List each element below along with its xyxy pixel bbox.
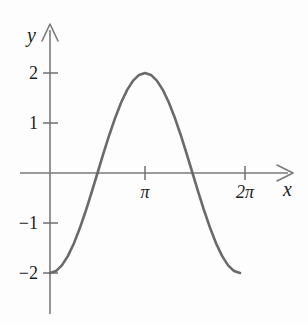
y-tick-label-2: 2 <box>0 64 38 82</box>
figure-canvas: y x 2 1 −1 −2 π 2π <box>0 0 308 325</box>
plot-svg <box>0 0 308 325</box>
y-axis-label: y <box>27 25 36 45</box>
y-tick-label-negative-2: −2 <box>0 264 38 282</box>
x-tick-label-2pi: 2π <box>222 183 268 201</box>
y-tick-label-negative-1: −1 <box>0 214 38 232</box>
y-tick-label-1: 1 <box>0 114 38 132</box>
x-axis-label: x <box>283 179 292 199</box>
x-tick-label-pi: π <box>122 183 168 201</box>
